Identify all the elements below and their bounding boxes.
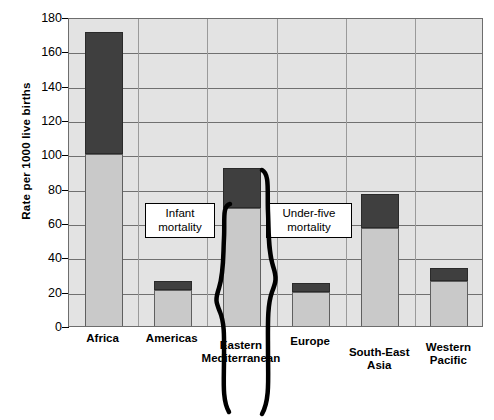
y-tick-label: 20: [22, 286, 62, 300]
bar-segment-under-five: [292, 283, 330, 292]
category-separator: [138, 19, 139, 326]
category-separator: [207, 19, 208, 326]
gridline: [69, 122, 482, 123]
bar-segment-infant: [361, 228, 399, 326]
y-tick-label: 120: [22, 114, 62, 128]
y-tick-label: 60: [22, 217, 62, 231]
under-five-mortality-callout-line1: Under-five: [272, 207, 346, 221]
y-tick-label: 180: [22, 11, 62, 25]
infant-mortality-brace-icon: [213, 200, 237, 420]
bar-group: [154, 17, 192, 326]
bar-group: [292, 17, 330, 326]
bar-group: [430, 17, 468, 326]
bar-segment-under-five: [430, 268, 468, 282]
infant-mortality-callout-line2: mortality: [151, 221, 209, 235]
under-five-mortality-callout-line2: mortality: [272, 221, 346, 235]
bar-segment-infant: [430, 281, 468, 326]
bar-segment-under-five: [361, 194, 399, 228]
y-tick-mark: [62, 327, 69, 328]
x-axis-label-western-pacific: WesternPacific: [406, 341, 491, 367]
y-axis: 020406080100120140160180: [18, 18, 62, 327]
y-tick-label: 0: [22, 320, 62, 334]
bar-segment-infant: [85, 154, 123, 326]
bar-segment-infant: [154, 290, 192, 326]
y-tick-label: 80: [22, 183, 62, 197]
gridline: [69, 53, 482, 54]
bar-segment-under-five: [85, 32, 123, 154]
bar-segment-infant: [292, 292, 330, 326]
category-separator: [346, 19, 347, 326]
gridline: [69, 156, 482, 157]
y-tick-label: 40: [22, 251, 62, 265]
under-five-mortality-brace-icon: [255, 166, 279, 420]
y-tick-label: 160: [22, 45, 62, 59]
y-tick-label: 140: [22, 80, 62, 94]
gridline: [69, 88, 482, 89]
bar-group: [361, 17, 399, 326]
infant-mortality-callout-line1: Infant: [151, 207, 209, 221]
bar-segment-under-five: [154, 281, 192, 290]
y-tick-label: 100: [22, 148, 62, 162]
bar-group: [85, 17, 123, 326]
infant-mortality-callout: Infant mortality: [145, 203, 215, 238]
category-separator: [415, 19, 416, 326]
